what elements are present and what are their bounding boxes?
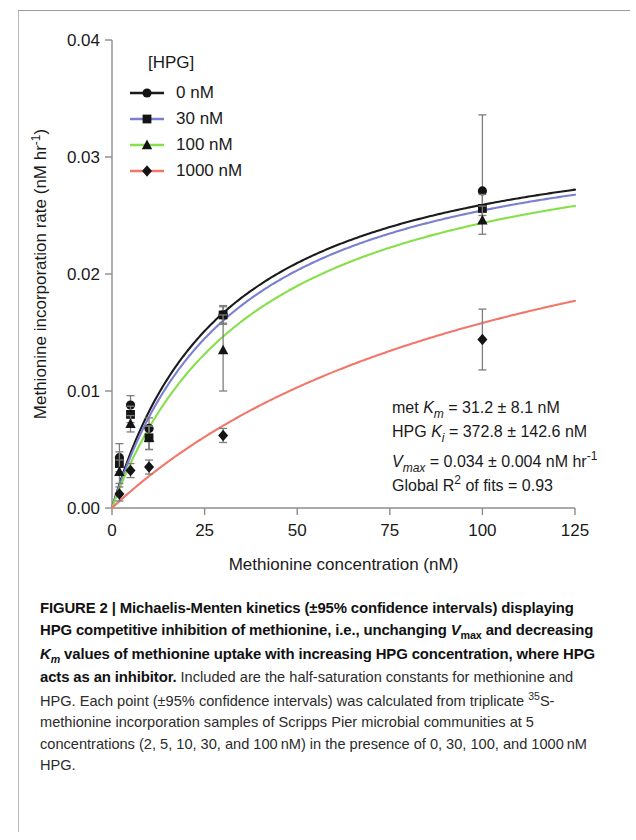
data-marker-diamond bbox=[144, 461, 154, 473]
data-marker-diamond bbox=[477, 334, 487, 346]
caption-vmax-sub: max bbox=[461, 629, 482, 641]
x-tick-label: 100 bbox=[468, 521, 496, 540]
y-tick-label: 0.02 bbox=[67, 265, 100, 284]
caption-isotope-sup: 35 bbox=[528, 690, 540, 702]
caption-figure-label: FIGURE 2 | bbox=[40, 600, 120, 616]
data-marker-diamond bbox=[142, 165, 152, 177]
data-marker-square bbox=[143, 115, 152, 124]
x-axis-title: Methionine concentration (nM) bbox=[229, 555, 459, 574]
data-marker-triangle bbox=[477, 215, 487, 225]
annotation-ki-hpg: HPG Ki = 372.8 ± 142.6 nM bbox=[392, 423, 587, 445]
x-tick-label: 125 bbox=[561, 521, 589, 540]
data-marker-circle bbox=[142, 88, 151, 97]
x-tick-label: 25 bbox=[195, 521, 214, 540]
michaelis-menten-plot: 02550751001250.000.010.020.030.04Methion… bbox=[0, 0, 636, 585]
figure-caption: FIGURE 2 | Michaelis-Menten kinetics (±9… bbox=[40, 598, 608, 776]
figure-panel: 02550751001250.000.010.020.030.04Methion… bbox=[0, 0, 636, 585]
caption-km-sub: m bbox=[51, 652, 60, 664]
y-tick-label: 0.04 bbox=[67, 31, 100, 50]
fit-annotation: met Km = 31.2 ± 8.1 nMHPG Ki = 372.8 ± 1… bbox=[392, 399, 598, 494]
caption-lead-2: and decreasing bbox=[482, 622, 594, 638]
annotation-vmax: Vmax = 0.034 ± 0.004 nM hr-1 bbox=[392, 449, 598, 475]
data-marker-diamond bbox=[218, 430, 228, 442]
legend-item-100-nm[interactable]: 100 nM bbox=[130, 135, 233, 154]
annotation-km-met: met Km = 31.2 ± 8.1 nM bbox=[392, 399, 560, 421]
x-axis-ticks: 0255075100125 bbox=[107, 508, 589, 540]
legend-item-30-nm[interactable]: 30 nM bbox=[130, 109, 223, 128]
y-tick-label: 0.00 bbox=[67, 499, 100, 518]
series-0-nm bbox=[115, 115, 487, 472]
y-tick-label: 0.03 bbox=[67, 148, 100, 167]
caption-km-symbol: K bbox=[40, 646, 51, 662]
x-tick-label: 0 bbox=[107, 521, 116, 540]
legend-item-0-nm[interactable]: 0 nM bbox=[130, 83, 214, 102]
y-axis-ticks: 0.000.010.020.030.04 bbox=[67, 31, 112, 518]
legend-item-label: 1000 nM bbox=[176, 161, 242, 180]
legend-item-label: 100 nM bbox=[176, 135, 233, 154]
y-axis-title: Methionine incorporation rate (nM hr-1) bbox=[29, 129, 50, 419]
legend: [HPG]0 nM30 nM100 nM1000 nM bbox=[130, 53, 242, 180]
series-100-nm bbox=[114, 206, 487, 483]
legend-title: [HPG] bbox=[148, 53, 194, 72]
legend-item-label: 0 nM bbox=[176, 83, 214, 102]
caption-vmax-symbol: V bbox=[451, 622, 461, 638]
y-axis-title-text: Methionine incorporation rate (nM hr-1) bbox=[29, 129, 50, 419]
data-marker-triangle bbox=[218, 345, 228, 355]
data-points-group bbox=[114, 115, 487, 501]
y-tick-label: 0.01 bbox=[67, 382, 100, 401]
legend-item-1000-nm[interactable]: 1000 nM bbox=[130, 161, 242, 180]
legend-item-label: 30 nM bbox=[176, 109, 223, 128]
x-tick-label: 50 bbox=[288, 521, 307, 540]
x-tick-label: 75 bbox=[380, 521, 399, 540]
annotation-r-squared: Global R2 of fits = 0.93 bbox=[392, 473, 553, 494]
